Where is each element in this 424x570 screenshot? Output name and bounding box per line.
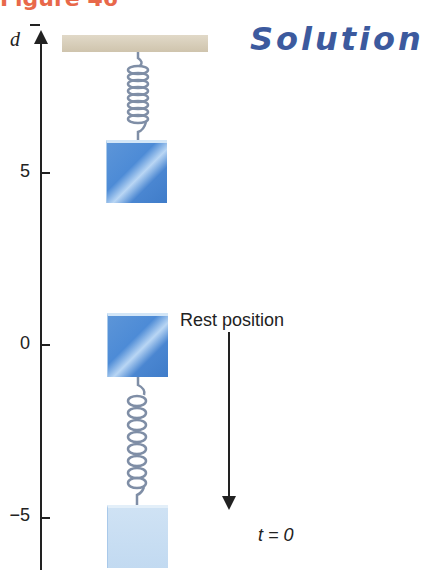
rest-position-label: Rest position	[180, 310, 284, 331]
lower-spring-icon	[122, 377, 154, 507]
figure-label: Figure 46	[0, 0, 118, 11]
mass-compressed	[106, 140, 167, 203]
axis-tick-minus-5	[40, 517, 50, 519]
axis-variable-label: d	[10, 28, 20, 51]
time-label: t = 0	[258, 525, 294, 546]
axis-tick-label-5: 5	[0, 161, 30, 182]
axis-tick-0	[40, 344, 50, 346]
ceiling-support	[62, 35, 208, 52]
upper-spring-icon	[122, 52, 154, 142]
down-arrow-icon	[222, 496, 236, 510]
axis-tick-label-minus-5: −5	[0, 505, 30, 526]
motion-arrow-line	[228, 332, 230, 502]
mass-released	[107, 505, 168, 568]
displacement-axis	[40, 40, 42, 570]
axis-tick-5	[40, 172, 50, 174]
axis-tick-label-0: 0	[0, 333, 30, 354]
axis-top-bar	[30, 24, 40, 26]
mass-rest-position	[107, 313, 168, 377]
solution-heading: Solution	[250, 20, 424, 58]
